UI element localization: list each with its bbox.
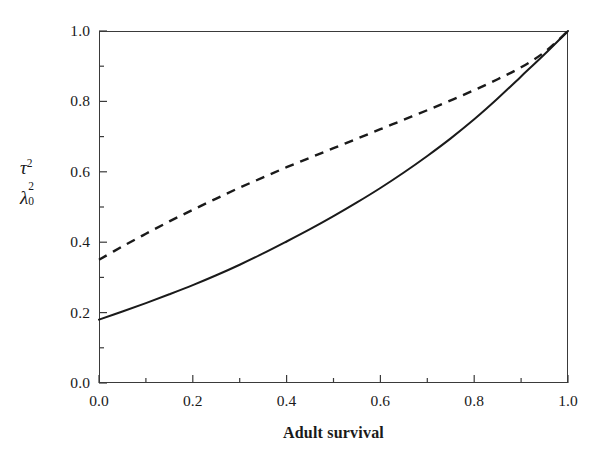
x-tick-1.0: 1.0 [538,392,598,410]
plot-frame [99,31,568,383]
x-tick-0.8: 0.8 [444,392,504,410]
y-tick-label: 1.0 [50,23,90,39]
y-axis-title-numerator: τ2 [20,158,68,188]
tau-symbol: τ [20,157,27,178]
x-tick-label: 0.2 [183,392,203,409]
x-tick-label: 0.8 [464,392,484,409]
x-axis-title: Adult survival [99,424,568,442]
y-tick-label: 0.0 [50,375,90,391]
x-tick-label: 0.4 [277,392,297,409]
x-tick-0.6: 0.6 [350,392,410,410]
y-axis-title: τ2 λ20 [20,158,68,218]
x-tick-0.4: 0.4 [257,392,317,410]
y-tick-label: 0.2 [50,305,90,321]
x-tick-0.0: 0.0 [69,392,129,410]
x-tick-label: 0.0 [89,392,109,409]
lambda-symbol: λ [20,187,28,208]
lambda-exponent: 2 [28,181,34,193]
lambda-group: λ20 [20,188,28,207]
y-tick-label: 0.8 [50,93,90,109]
x-tick-0.2: 0.2 [163,392,223,410]
x-tick-label: 1.0 [558,392,578,409]
x-tick-label: 0.6 [371,392,391,409]
figure-container: 0.00.20.40.60.81.0 0.00.20.40.60.81.0 τ2… [0,0,601,471]
tau-exponent: 2 [27,157,33,169]
y-tick-label: 0.4 [50,234,90,250]
lambda-subscript: 0 [28,196,34,208]
y-axis-title-denominator: λ20 [20,188,68,218]
